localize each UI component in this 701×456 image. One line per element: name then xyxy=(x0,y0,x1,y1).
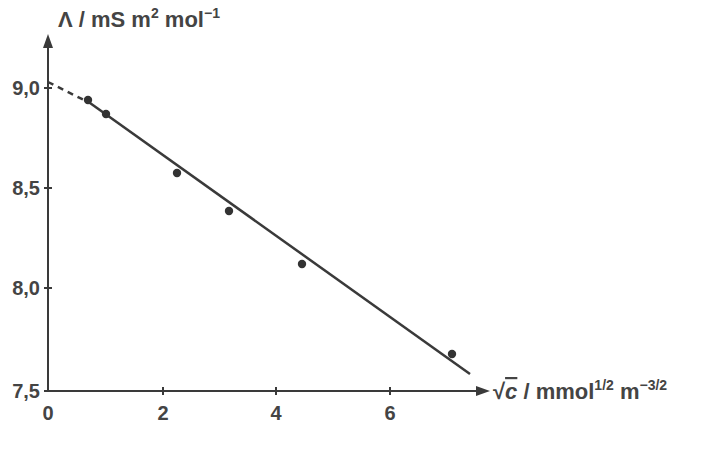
data-point xyxy=(225,207,233,215)
y-tick-label: 7,5 xyxy=(12,380,40,402)
y-tick-label: 9,0 xyxy=(12,77,40,99)
y-axis xyxy=(43,34,53,391)
x-tick-label: 4 xyxy=(270,402,282,424)
x-axis-arrow-icon xyxy=(476,386,490,396)
y-axis-title: Λ / mS m2 mol−1 xyxy=(58,5,220,32)
y-axis-arrow-icon xyxy=(43,34,53,48)
data-point xyxy=(173,169,181,177)
data-point xyxy=(448,350,456,358)
x-tick-label: 0 xyxy=(42,402,53,424)
fit-line xyxy=(48,82,470,374)
x-axis xyxy=(48,386,490,396)
x-tick-label: 6 xyxy=(384,402,395,424)
y-tick-label: 8,0 xyxy=(12,277,40,299)
data-point xyxy=(298,260,306,268)
fit-line-solid xyxy=(90,103,470,374)
data-points xyxy=(84,96,456,358)
x-tick-label: 2 xyxy=(157,402,168,424)
y-tick-label: 8,5 xyxy=(12,177,40,199)
x-axis-title: √c / mmol1/2 m−3/2 xyxy=(493,377,667,404)
fit-line-extrapolation xyxy=(48,82,90,103)
data-point xyxy=(102,110,110,118)
data-point xyxy=(84,96,92,104)
chart: 9,0 8,5 8,0 7,5 0 2 4 6 Λ / mS m2 mol−1 … xyxy=(0,0,701,456)
